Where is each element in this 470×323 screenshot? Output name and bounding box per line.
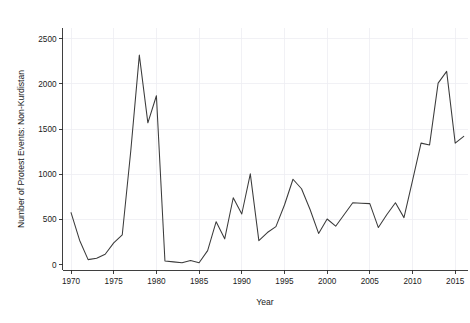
y-tick-label: 1500 [38, 125, 57, 134]
x-tick-label: 1995 [275, 277, 294, 286]
x-tick-label: 1990 [233, 277, 252, 286]
y-tick-label-group: 05001000150020002500 [38, 35, 57, 270]
y-axis-title: Number of Protest Events: Non-Kurdistan [16, 70, 26, 228]
chart-canvas: 05001000150020002500 1970197519801985199… [0, 0, 470, 323]
y-tick-mark-group [59, 39, 63, 265]
x-tick-label: 1980 [147, 277, 166, 286]
x-tick-label: 1985 [190, 277, 209, 286]
y-tick-label: 0 [52, 261, 57, 270]
x-tick-label: 2005 [361, 277, 380, 286]
x-tick-label-group: 1970197519801985199019952000200520102015 [62, 277, 465, 286]
x-tick-label: 2000 [318, 277, 337, 286]
x-tick-label: 1975 [105, 277, 124, 286]
y-tick-label: 2500 [38, 35, 57, 44]
gridline-group [63, 28, 469, 270]
x-tick-label: 2015 [446, 277, 465, 286]
data-series-line [71, 55, 464, 263]
y-tick-label: 1000 [38, 170, 57, 179]
y-tick-label: 500 [43, 215, 57, 224]
x-tick-label: 1970 [62, 277, 81, 286]
x-axis-title: Year [256, 297, 274, 307]
protest-events-line-chart: 05001000150020002500 1970197519801985199… [0, 0, 470, 323]
x-tick-label: 2010 [403, 277, 422, 286]
y-tick-label: 2000 [38, 80, 57, 89]
